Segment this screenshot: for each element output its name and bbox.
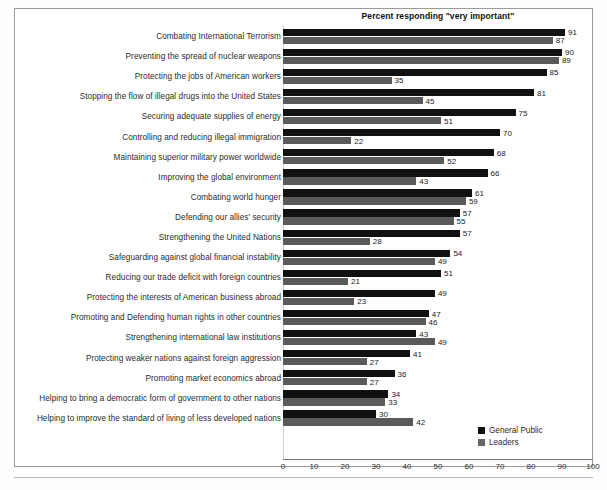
bar-value-label: 81 — [534, 88, 546, 97]
bar-value-label: 57 — [460, 229, 472, 238]
bar-row: Reducing our trade deficit with foreign … — [0, 267, 607, 287]
legend-label-leaders: Leaders — [489, 438, 519, 447]
bar-row: Promoting market economics abroad3627 — [0, 368, 607, 388]
bar-value-label: 75 — [516, 108, 528, 117]
bar-rect — [283, 57, 559, 64]
bar-value-label: 27 — [367, 377, 379, 386]
category-label: Promoting and Defending human rights in … — [71, 313, 281, 322]
bar-row: Strengthening the United Nations5728 — [0, 227, 607, 247]
bar-row: Protecting the interests of American bus… — [0, 287, 607, 307]
bar-value-label: 42 — [413, 418, 425, 427]
bar-value-label: 54 — [450, 249, 462, 258]
bar-group: 3433 — [283, 388, 607, 408]
bar-leaders: 49 — [283, 258, 607, 265]
bar-value-label: 91 — [565, 28, 577, 37]
bar-rect — [283, 350, 410, 357]
bar-leaders: 52 — [283, 157, 607, 164]
category-label: Improving the global environment — [158, 172, 281, 181]
bar-rect — [283, 29, 565, 36]
category-label: Controlling and reducing illegal immigra… — [122, 132, 281, 141]
bar-rect — [283, 330, 416, 337]
bar-group: 4923 — [283, 287, 607, 307]
bar-rect — [283, 197, 466, 204]
bar-group: 5121 — [283, 267, 607, 287]
bar-row: Combating International Terrorism9187 — [0, 26, 607, 46]
bar-group: 7022 — [283, 126, 607, 146]
bar-rect — [283, 238, 370, 245]
category-label: Combating world hunger — [191, 192, 281, 201]
bar-rect — [283, 270, 441, 277]
legend-swatch-general-public-icon — [478, 427, 485, 434]
bar-row: Promoting and Defending human rights in … — [0, 307, 607, 327]
bar-value-label: 51 — [441, 269, 453, 278]
bar-general-public: 57 — [283, 209, 607, 216]
bar-value-label: 85 — [547, 68, 559, 77]
bar-leaders: 27 — [283, 378, 607, 385]
page-edge-divider — [14, 477, 593, 478]
bar-value-label: 35 — [392, 76, 404, 85]
category-label: Maintaining superior military power worl… — [114, 152, 281, 161]
bar-rect — [283, 49, 562, 56]
bar-group: 6852 — [283, 147, 607, 167]
bar-group: 9089 — [283, 46, 607, 66]
bar-leaders: 35 — [283, 77, 607, 84]
bar-value-label: 27 — [367, 357, 379, 366]
axis-tick-label: 40 — [403, 462, 412, 471]
bar-leaders: 43 — [283, 177, 607, 184]
bar-row: Helping to bring a democratic form of go… — [0, 388, 607, 408]
bar-value-label: 51 — [441, 116, 453, 125]
bar-general-public: 30 — [283, 410, 607, 417]
bar-rect — [283, 378, 367, 385]
x-axis-ticks: 0102030405060708090100 — [283, 462, 593, 476]
bar-general-public: 41 — [283, 350, 607, 357]
category-label: Helping to bring a democratic form of go… — [39, 393, 281, 402]
bar-leaders: 55 — [283, 217, 607, 224]
bar-value-label: 49 — [435, 337, 447, 346]
bar-general-public: 85 — [283, 69, 607, 76]
bar-leaders: 28 — [283, 238, 607, 245]
bar-value-label: 43 — [416, 329, 428, 338]
axis-tick-label: 10 — [310, 462, 319, 471]
bar-leaders: 49 — [283, 338, 607, 345]
x-axis-line — [283, 459, 593, 460]
category-label: Protecting the interests of American bus… — [87, 293, 281, 302]
bar-general-public: 47 — [283, 310, 607, 317]
legend-swatch-leaders-icon — [478, 439, 485, 446]
bar-rect — [283, 69, 547, 76]
bar-general-public: 61 — [283, 189, 607, 196]
legend-item-general-public: General Public — [478, 425, 543, 436]
bar-row: Protecting weaker nations against foreig… — [0, 348, 607, 368]
axis-tick-label: 20 — [341, 462, 350, 471]
bar-group: 3042 — [283, 408, 607, 428]
category-label: Securing adequate supplies of energy — [142, 112, 281, 121]
bar-leaders: 42 — [283, 418, 607, 425]
bar-rect — [283, 189, 472, 196]
bar-group: 4746 — [283, 307, 607, 327]
bar-row: Maintaining superior military power worl… — [0, 147, 607, 167]
bar-rect — [283, 278, 348, 285]
chart-page: Percent responding "very important" Comb… — [0, 0, 607, 490]
bar-rect — [283, 37, 553, 44]
axis-tick-label: 100 — [586, 462, 599, 471]
bar-general-public: 70 — [283, 129, 607, 136]
bar-rect — [283, 209, 460, 216]
bar-group: 8535 — [283, 66, 607, 86]
bar-rect — [283, 109, 516, 116]
bar-value-label: 49 — [435, 289, 447, 298]
bar-group: 9187 — [283, 26, 607, 46]
chart-title: Percent responding "very important" — [283, 11, 593, 21]
bar-leaders: 46 — [283, 318, 607, 325]
axis-tick-label: 80 — [527, 462, 536, 471]
axis-tick-label: 90 — [558, 462, 567, 471]
bar-rect — [283, 129, 500, 136]
legend-label-general-public: General Public — [489, 426, 543, 435]
bar-value-label: 28 — [370, 237, 382, 246]
category-label: Reducing our trade deficit with foreign … — [106, 273, 281, 282]
bar-row: Combating world hunger6159 — [0, 187, 607, 207]
bar-value-label: 55 — [454, 217, 466, 226]
bar-row: Defending our allies' security5755 — [0, 207, 607, 227]
bar-group: 5755 — [283, 207, 607, 227]
bar-rect — [283, 217, 454, 224]
bar-general-public: 36 — [283, 370, 607, 377]
bar-value-label: 59 — [466, 196, 478, 205]
